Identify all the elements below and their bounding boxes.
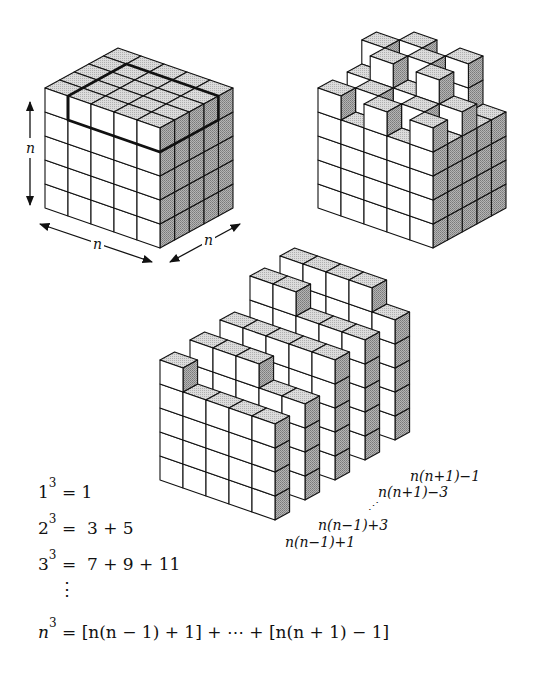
height-label: n — [26, 138, 35, 158]
equation-n: n3 = [n(n − 1) + 1] + ⋯ + [n(n + 1) − 1] — [38, 620, 389, 642]
depth-label: n — [202, 232, 215, 248]
equation-2: 23 = 3 + 5 — [38, 516, 134, 538]
vertical-ellipsis: ⋮ — [58, 584, 76, 593]
slab-label-4: n(n+1)−3 — [378, 484, 448, 500]
width-label: n — [91, 236, 104, 252]
equation-1: 13 = 1 — [38, 480, 92, 502]
slab-label-5: n(n+1)−1 — [410, 468, 480, 484]
layered-cube — [318, 32, 506, 248]
slab-label-1: n(n−1)+1 — [285, 534, 355, 550]
slab-label-2: n(n−1)+3 — [318, 517, 388, 533]
equation-3: 33 = 7 + 9 + 11 — [38, 552, 180, 574]
slab-label-ellipsis: ⋰ — [368, 500, 379, 513]
proof-diagram — [0, 0, 537, 677]
odd-number-slabs — [160, 248, 410, 520]
full-cube — [45, 48, 233, 248]
